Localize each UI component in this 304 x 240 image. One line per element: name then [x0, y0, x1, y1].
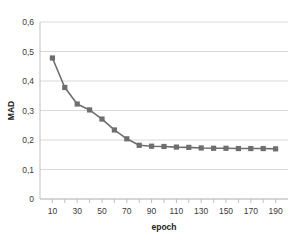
x-axis-tick-label: 70 — [122, 206, 132, 216]
data-point-marker — [161, 144, 166, 149]
data-point-marker — [199, 145, 204, 150]
data-point-marker — [112, 127, 117, 132]
data-point-marker — [75, 101, 80, 106]
line-chart: 00,10,20,30,40,50,6 10305070901101301501… — [0, 0, 304, 240]
y-axis-tick-label: 0,1 — [22, 165, 34, 175]
data-point-marker — [174, 144, 179, 149]
y-axis-tick-label: 0,5 — [22, 47, 34, 57]
x-axis-tick-label: 10 — [48, 206, 58, 216]
x-axis-tick-label: 130 — [194, 206, 208, 216]
data-point-marker — [211, 146, 216, 151]
x-axis-tick-label: 150 — [219, 206, 233, 216]
x-axis-tick-label: 170 — [244, 206, 258, 216]
data-point-marker — [273, 146, 278, 151]
y-axis-title: MAD — [6, 101, 16, 120]
data-point-marker — [149, 144, 154, 149]
data-point-marker — [124, 136, 129, 141]
x-axis-title: epoch — [151, 222, 176, 232]
data-point-marker — [186, 145, 191, 150]
data-point-marker — [236, 146, 241, 151]
y-axis-tick-label: 0,3 — [22, 106, 34, 116]
y-axis-tick-label: 0,2 — [22, 135, 34, 145]
x-axis-tick-label: 90 — [147, 206, 157, 216]
chart-background — [0, 0, 304, 240]
data-point-marker — [62, 85, 67, 90]
data-point-marker — [50, 55, 55, 60]
data-point-marker — [99, 116, 104, 121]
x-axis-tick-label: 110 — [170, 206, 184, 216]
data-point-marker — [261, 146, 266, 151]
y-axis-tick-label: 0,6 — [22, 17, 34, 27]
y-axis-tick-label: 0 — [29, 194, 34, 204]
x-axis-tick-label: 30 — [72, 206, 82, 216]
x-axis-tick-label: 190 — [269, 206, 283, 216]
y-axis-tick-label: 0,4 — [22, 76, 34, 86]
chart-container: 00,10,20,30,40,50,6 10305070901101301501… — [0, 0, 304, 240]
data-point-marker — [137, 143, 142, 148]
data-point-marker — [223, 146, 228, 151]
data-point-marker — [87, 107, 92, 112]
x-axis-tick-label: 50 — [97, 206, 107, 216]
data-point-marker — [248, 146, 253, 151]
